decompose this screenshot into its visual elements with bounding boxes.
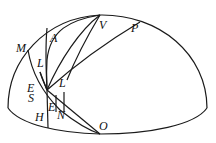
- arc-v: [47, 15, 100, 90]
- label-e-lower: E: [48, 101, 55, 113]
- hemisphere-diagram: M A V P L L E S E N H O: [0, 0, 216, 143]
- label-m: M: [16, 42, 26, 54]
- arc-v2: [67, 15, 100, 80]
- arc-a: [47, 15, 100, 90]
- label-o: O: [99, 120, 108, 132]
- diagram-lines: [0, 0, 216, 143]
- label-v: V: [99, 19, 106, 31]
- label-s: S: [28, 92, 34, 104]
- label-l-upper: L: [37, 57, 44, 69]
- label-a: A: [50, 32, 57, 44]
- label-p: P: [131, 22, 138, 34]
- label-l-lower: L: [59, 77, 66, 89]
- label-h: H: [35, 111, 44, 123]
- label-n: N: [57, 109, 65, 121]
